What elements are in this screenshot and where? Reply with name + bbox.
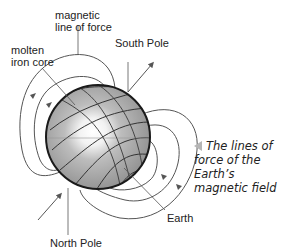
label-north-pole: North Pole [50,237,102,249]
magnetic-field-diagram: magnetic line of force molten iron core … [0,0,293,252]
caption-line-3: magnetic field [194,181,277,195]
label-magnetic-line-of-force: magnetic line of force [55,9,112,33]
label-earth: Earth [167,212,193,224]
caption-line-2: force of the Earth’s [194,153,260,181]
figure-caption: The lines of force of the Earth’s magnet… [194,139,293,195]
caption-pointer-triangle-icon [194,141,202,151]
label-south-pole: South Pole [115,37,169,49]
label-molten-iron-core: molten iron core [11,44,54,68]
caption-line-1: The lines of [206,139,273,153]
